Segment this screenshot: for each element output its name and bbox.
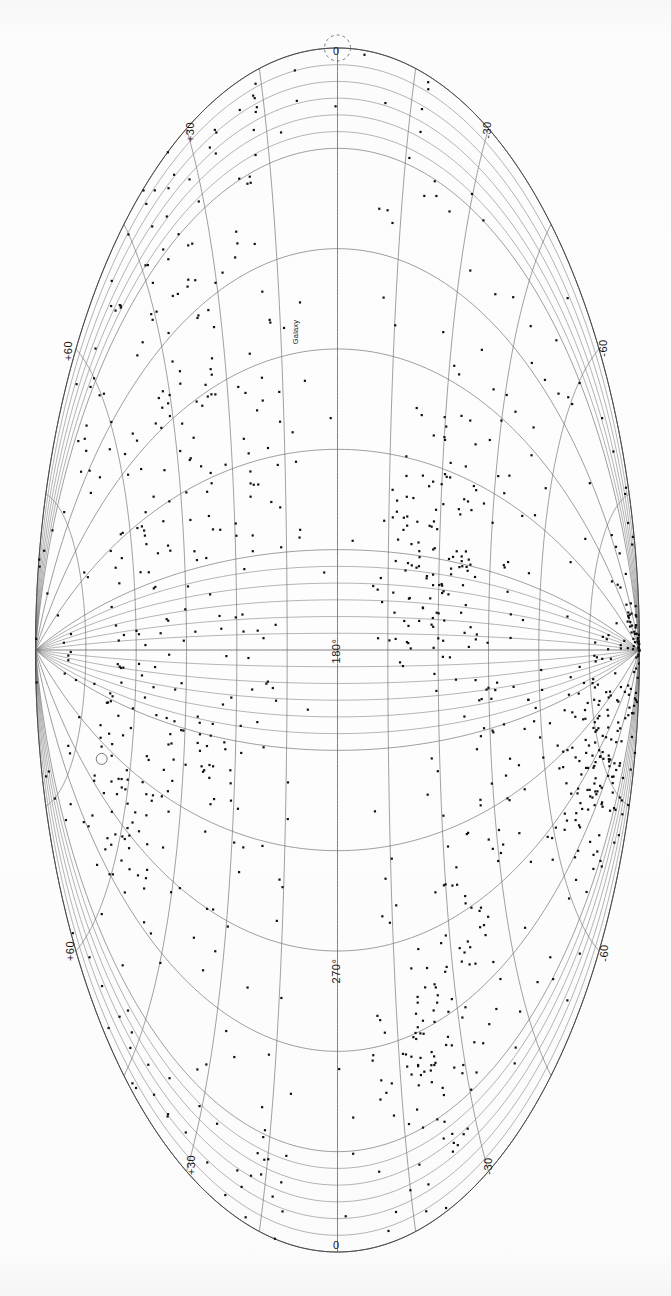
label-mid-upper-left-lat: +60 xyxy=(62,341,74,361)
label-mid-lower-left-lat: +60 xyxy=(64,941,76,961)
label-bottom-right-lat: -30 xyxy=(482,1157,494,1174)
label-mid-upper-right-lat: -60 xyxy=(597,339,609,356)
label-center-meridian-lower: 270° xyxy=(330,959,342,984)
label-galaxy-feature: Galaxy xyxy=(291,320,300,345)
figure-annotations xyxy=(96,35,350,764)
label-top-left-lat: +30 xyxy=(184,122,196,142)
label-mid-lower-right-lat: -60 xyxy=(598,944,610,961)
label-top-right-lat: -30 xyxy=(481,121,493,138)
label-bottom-left-lat: +30 xyxy=(185,1155,197,1175)
label-center-meridian-upper: 180° xyxy=(330,639,342,664)
sky-map-figure: 0 0 180° 270° +30 +60 +60 +30 -30 -60 -6… xyxy=(0,0,671,1296)
label-top-pole: 0 xyxy=(333,45,339,57)
label-bottom-pole: 0 xyxy=(333,1239,339,1251)
